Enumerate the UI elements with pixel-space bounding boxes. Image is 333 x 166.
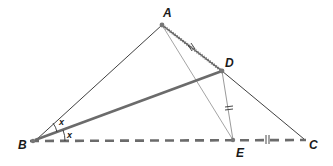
point-B [31,139,35,143]
label-D: D [225,56,234,70]
label-B: B [18,138,27,152]
segment-BC [30,140,306,141]
segment-DE [222,71,233,140]
angle-arc-ABD [53,123,57,132]
tick-marks-DE [225,106,233,110]
geometry-diagram: A D B E C x x [0,0,333,166]
segment-BD [35,71,222,140]
label-C: C [309,138,318,152]
point-D [220,69,225,74]
point-E [231,138,235,142]
angle-label-lower: x [66,130,73,140]
label-E: E [236,146,245,160]
point-A [160,23,165,28]
segment-AB [36,25,162,140]
label-A: A [162,6,172,20]
tick-marks-EC [266,135,269,144]
segment-AE [162,25,233,140]
angle-arc-DBC [63,130,65,141]
segment-DC [222,71,304,139]
angle-label-upper: x [58,117,65,127]
